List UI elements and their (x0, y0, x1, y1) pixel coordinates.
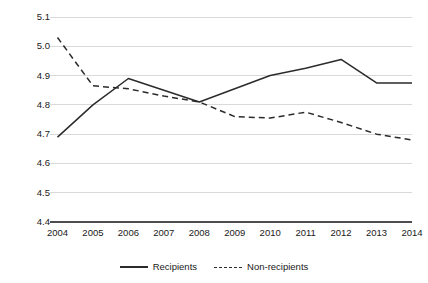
x-axis-tick-label: 2013 (366, 227, 387, 238)
data-series-layer (58, 38, 413, 141)
x-axis-tick-label: 2009 (224, 227, 245, 238)
x-axis-tick-label: 2006 (118, 227, 139, 238)
x-axis-tick-label: 2010 (260, 227, 281, 238)
legend-entry-recipients: Recipients (120, 261, 197, 273)
chart-legend: RecipientsNon-recipients (0, 258, 428, 276)
legend-swatch-solid-icon (120, 266, 148, 268)
x-axis-tick-label: 2014 (401, 227, 422, 238)
x-axis-tick-label: 2005 (82, 227, 103, 238)
legend-label: Recipients (153, 261, 197, 273)
x-axis-tick-label: 2007 (153, 227, 174, 238)
freedom-of-press-line-chart: Freedom of the press (1 to 10 best) 5.15… (0, 0, 428, 283)
x-axis-tick-label: 2011 (295, 227, 315, 238)
legend-label: Non-recipients (247, 261, 308, 273)
x-axis-tick-label: 2004 (47, 227, 68, 238)
legend-entry-non-recipients: Non-recipients (214, 261, 308, 273)
legend-swatch-dashed-icon (214, 267, 242, 268)
series-line-recipients (58, 59, 413, 137)
x-axis-tick-label: 2008 (189, 227, 210, 238)
x-axis-tick-label: 2012 (331, 227, 352, 238)
gridlines (50, 17, 413, 193)
x-axis-tick-labels: 2004200520062007200820092010201120122013… (0, 227, 428, 241)
